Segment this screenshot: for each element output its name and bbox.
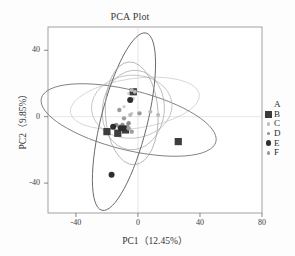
legend-item-d[interactable]: D: [264, 129, 294, 139]
legend-marker-square-icon: [264, 110, 273, 119]
data-point: [128, 113, 132, 117]
data-point: [137, 111, 141, 115]
legend-label: A: [273, 100, 281, 109]
legend-marker-circle-icon: [264, 139, 273, 148]
x-tick-label: 40: [186, 218, 214, 227]
legend-item-e[interactable]: E: [264, 138, 294, 148]
legend-marker-circle-icon: [264, 129, 273, 138]
data-point: [133, 90, 137, 94]
data-point: [126, 121, 130, 125]
legend: ABCDEF: [264, 100, 294, 158]
y-tick-label: 0: [14, 112, 40, 121]
data-point: [175, 138, 182, 145]
legend-marker-none-icon: [264, 100, 273, 109]
legend-label: D: [273, 129, 281, 138]
data-point: [127, 97, 133, 103]
data-point: [122, 116, 126, 120]
pca-plot-figure: PCA Plot PC1（12.45%） PC2（9.85%） ABCDEF -…: [0, 0, 295, 256]
legend-marker-circle-icon: [264, 119, 273, 128]
y-tick-label: 40: [14, 45, 40, 54]
data-point: [117, 108, 121, 112]
legend-item-f[interactable]: F: [264, 148, 294, 158]
data-point: [121, 125, 127, 131]
data-point: [148, 110, 152, 114]
legend-label: F: [273, 148, 279, 157]
data-point: [126, 126, 130, 130]
data-point: [110, 124, 116, 130]
x-tick-label: 0: [124, 218, 152, 227]
legend-marker-circle-icon: [264, 148, 273, 157]
y-tick-label: -40: [14, 178, 40, 187]
x-tick-label: -40: [62, 218, 90, 227]
x-tick-label: 80: [248, 218, 276, 227]
data-point: [109, 172, 115, 178]
data-point: [130, 129, 134, 133]
data-point: [103, 128, 110, 135]
x-axis-label: PC1（12.45%）: [48, 233, 262, 247]
data-point: [156, 113, 160, 117]
data-point: [122, 105, 125, 108]
